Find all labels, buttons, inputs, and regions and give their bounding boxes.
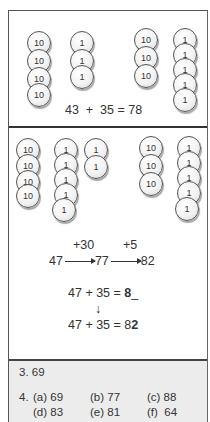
answer-4a: (a) 69	[33, 391, 63, 403]
answer-4b: (b) 77	[90, 391, 120, 403]
down-arrow-icon: ↓	[95, 302, 101, 316]
answers-panel: 3. 69 4. (a) 69 (b) 77 (c) 88 (d) 83 (e)…	[9, 359, 207, 422]
jump-number-line: 477782	[49, 254, 155, 268]
answer-4e: (e) 81	[90, 406, 120, 418]
blank: _	[131, 286, 138, 300]
equation-text: 47 + 35 = 8	[68, 318, 131, 332]
one-coin: 1	[173, 88, 197, 112]
panel-47-plus-35: 10 10 10 10 1 1 1 1 1 1 1 10 10 10 1 1 1…	[9, 126, 207, 360]
step2-label: +5	[123, 238, 137, 252]
ten-coin: 10	[27, 83, 51, 107]
answer-4d: (d) 83	[33, 406, 63, 418]
equation-complete: 47 + 35 = 82	[68, 318, 138, 332]
right-arrow-icon	[111, 261, 141, 262]
answer-key-box: 10 10 10 10 1 1 1 10 10 10 1 1 1 1 1 43 …	[8, 10, 208, 422]
equation-partial: 47 + 35 = 8_	[68, 286, 138, 300]
right-arrow-icon	[65, 261, 95, 262]
end-value: 82	[141, 254, 155, 268]
question-4-label: 4.	[19, 391, 29, 403]
start-value: 47	[49, 254, 63, 268]
step1-label: +30	[73, 238, 94, 252]
one-coin: 1	[175, 197, 199, 221]
equation-text: 47 + 35 =	[68, 286, 124, 300]
one-coin: 1	[84, 155, 108, 179]
ten-coin: 10	[134, 64, 158, 88]
answer-4f: (f) 64	[147, 406, 177, 418]
one-coin: 1	[52, 198, 76, 222]
ones-digit: 2	[131, 318, 138, 332]
one-coin: 1	[70, 65, 94, 89]
equation-43-plus-35: 43 + 35 = 78	[65, 103, 142, 117]
answer-4c: (c) 88	[147, 391, 176, 403]
ten-coin: 10	[16, 184, 40, 208]
mid-value: 77	[95, 254, 109, 268]
answer-3: 3. 69	[19, 366, 45, 378]
panel-43-plus-35: 10 10 10 10 1 1 1 10 10 10 1 1 1 1 1 43 …	[9, 11, 207, 126]
ten-coin: 10	[139, 172, 163, 196]
